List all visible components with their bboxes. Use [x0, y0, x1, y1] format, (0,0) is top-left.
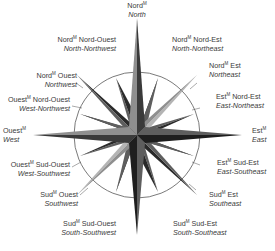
label-west-southwest: OuestM Sud-Ouest West-Southwest: [11, 160, 70, 178]
label-northwest: NordM Ouest Northwest: [36, 71, 77, 89]
label-east-northeast: EstM Nord-Est East-Northeast: [216, 92, 264, 110]
label-east-southeast: EstM Sud-Est East-Southeast: [217, 158, 266, 176]
label-north-northeast: NordM Nord-Est North-Northeast: [172, 35, 223, 53]
label-west: OuestM West: [3, 126, 26, 144]
label-south-southwest: SudM Sud-Ouest South-Southwest: [61, 219, 116, 237]
label-southeast: SudM Est Southeast: [209, 190, 241, 208]
label-northeast: NordM Est Northeast: [209, 61, 241, 79]
label-east: EstM East: [252, 126, 266, 144]
label-southwest: SudM Ouest Southwest: [40, 190, 78, 208]
label-west-northwest: OuestM Nord-Ouest West-Northwest: [8, 95, 70, 113]
label-north-northwest: NordM Nord-Ouest North-Northwest: [58, 35, 117, 53]
label-south-southeast: SudM Sud-Est South-Southeast: [173, 219, 227, 237]
label-north: NordM North: [120, 1, 154, 19]
compass-rose: [0, 0, 275, 251]
